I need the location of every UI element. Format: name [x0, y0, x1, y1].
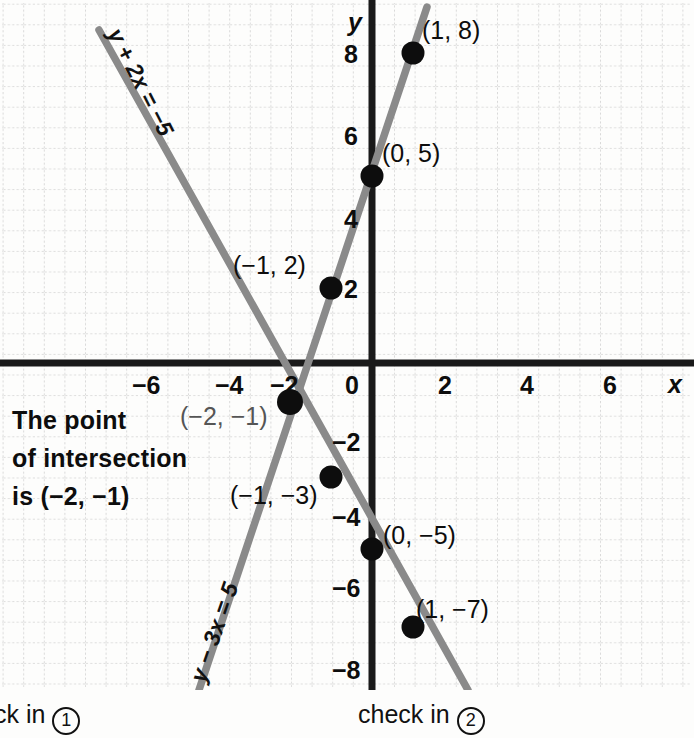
- point-label-m1-m3: (−1, −3): [230, 483, 318, 508]
- y-tick-2: 2: [344, 277, 358, 302]
- point-0-m5: [361, 538, 384, 561]
- point-1-8: [402, 42, 425, 65]
- y-tick-6: 6: [344, 124, 358, 149]
- y-tick-8: 8: [344, 42, 358, 67]
- y-tick-4: 4: [344, 207, 358, 232]
- point-label-0-m5: (0, −5): [383, 523, 456, 548]
- point-label-1-8: (1, 8): [422, 18, 480, 43]
- x-tick--4: −4: [215, 373, 244, 398]
- y-axis-label: y: [348, 10, 362, 35]
- footer-check-in-1: ck in 1: [0, 700, 80, 735]
- x-tick--6: −6: [132, 373, 161, 398]
- footer-check-in-2: check in 2: [358, 700, 485, 735]
- x-tick-0: 0: [345, 373, 359, 398]
- point-label-m2-m1: (−2, −1): [180, 404, 268, 429]
- annotation-line-2: of intersection: [12, 446, 187, 471]
- coordinate-graph: −6 −4 −2 0 2 4 6 x y 8 6 4 2 −2 −4 −6 −8…: [0, 0, 694, 690]
- y-tick--2: −2: [332, 430, 361, 455]
- x-tick-2: 2: [438, 373, 452, 398]
- x-axis-label: x: [668, 372, 682, 397]
- y-tick--4: −4: [332, 505, 361, 530]
- y-tick--8: −8: [332, 658, 361, 683]
- annotation-line-1: The point: [12, 408, 126, 433]
- annotation-line-3: is (−2, −1): [12, 484, 130, 509]
- footer-right-circled-number: 2: [457, 707, 485, 735]
- x-tick-4: 4: [520, 373, 534, 398]
- footer-right-text: check in: [358, 700, 450, 728]
- point-label-1-m7: (1, −7): [416, 597, 489, 622]
- x-tick--2: −2: [270, 373, 299, 398]
- footer-left-circled-number: 1: [52, 707, 80, 735]
- y-tick--6: −6: [332, 576, 361, 601]
- point-label-0-5: (0, 5): [382, 141, 440, 166]
- footer-left-text: ck in: [0, 700, 45, 728]
- point-0-5: [361, 165, 384, 188]
- point-m1-2: [320, 277, 343, 300]
- x-tick-6: 6: [603, 373, 617, 398]
- point-label-m1-2: (−1, 2): [233, 253, 306, 278]
- point-m1-m3: [320, 466, 343, 489]
